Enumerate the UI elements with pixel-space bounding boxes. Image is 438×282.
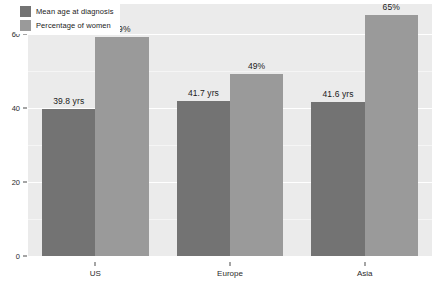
chart-legend: Mean age at diagnosisPercentage of women <box>16 3 120 34</box>
y-tick-label: 20 <box>12 177 20 186</box>
bar <box>230 74 283 256</box>
bar <box>177 101 230 256</box>
bar <box>311 102 364 256</box>
plot-area: 39.8 yrs59%41.7 yrs49%41.6 yrs65% <box>28 4 432 256</box>
legend-swatch-icon <box>20 20 31 31</box>
x-tick-mark <box>364 262 365 266</box>
bar <box>95 37 148 256</box>
x-tick-mark <box>230 262 231 266</box>
x-axis: USEuropeAsia <box>28 256 432 282</box>
legend-swatch-icon <box>20 6 31 17</box>
x-tick-label: Asia <box>357 269 373 278</box>
bar-value-label: 65% <box>346 4 432 12</box>
bar-chart: 0204060 39.8 yrs59%41.7 yrs49%41.6 yrs65… <box>0 0 438 282</box>
legend-item-label: Mean age at diagnosis <box>36 7 114 16</box>
bar-value-label: 49% <box>211 61 301 71</box>
x-tick-label: US <box>90 269 101 278</box>
legend-item[interactable]: Percentage of women <box>20 20 114 31</box>
bar <box>365 15 418 256</box>
legend-item[interactable]: Mean age at diagnosis <box>20 6 114 17</box>
y-axis: 0204060 <box>0 4 28 256</box>
y-tick-mark <box>23 107 27 108</box>
legend-item-label: Percentage of women <box>36 21 111 30</box>
y-tick-mark <box>23 256 27 257</box>
x-tick-label: Europe <box>217 269 243 278</box>
x-tick-mark <box>95 262 96 266</box>
y-tick-mark <box>23 181 27 182</box>
y-tick-label: 40 <box>12 103 20 112</box>
y-tick-label: 0 <box>16 252 20 261</box>
bar <box>42 109 95 256</box>
